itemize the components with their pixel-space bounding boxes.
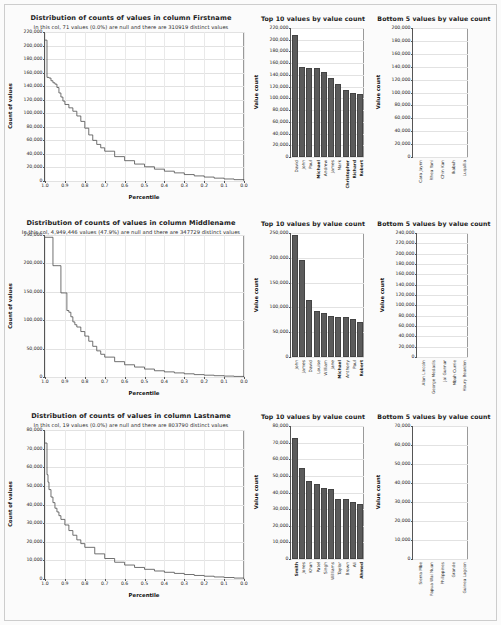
bar	[321, 72, 327, 157]
y-tick-label: 0	[286, 355, 289, 360]
y-tick-label: 60,000	[272, 457, 288, 462]
y-tick-label: 60,000	[398, 324, 414, 329]
y-gridline	[417, 347, 468, 348]
top10-block-lastname: Top 10 values by value count 010,00020,0…	[254, 404, 372, 619]
bar-category-label: Jai Gunnar	[443, 360, 447, 382]
y-tick-mark	[411, 131, 413, 132]
x-tick-label: 0.3	[181, 184, 188, 189]
chart-title: Distribution of counts of values in colu…	[8, 6, 254, 23]
histogram-block-lastname: Distribution of counts of values in colu…	[8, 404, 254, 619]
y-tick-label: 80,000	[398, 313, 414, 318]
y-tick-mark	[411, 464, 413, 465]
y-tick-label: 20,000	[272, 143, 288, 148]
y-gridline	[291, 357, 364, 358]
y-axis-label: Count of values	[7, 469, 13, 539]
plot-axes: 010,00020,00030,00040,00050,00060,00070,…	[290, 426, 364, 560]
y-tick-label: 60,000	[394, 116, 410, 121]
y-tick-label: 200,000	[270, 256, 289, 261]
y-tick-label: 100,000	[270, 96, 289, 101]
bar	[328, 316, 334, 357]
x-tick-label: 0.8	[81, 380, 88, 385]
bar	[292, 35, 298, 157]
y-tick-label: 40,000	[394, 481, 410, 486]
bar-category-label: Jane	[331, 360, 335, 369]
y-tick-label: 140,000	[396, 282, 415, 287]
bar-category-label: Chin Kan	[441, 160, 445, 179]
bar-category-label: Paul	[309, 160, 313, 169]
bar	[321, 313, 327, 357]
y-tick-label: 40,000	[26, 502, 42, 507]
bar	[314, 311, 320, 357]
y-tick-label: 60,000	[26, 465, 42, 470]
y-tick-label: 200,000	[392, 26, 411, 31]
y-tick-label: 20,000	[398, 344, 414, 349]
y-tick-label: 50,000	[26, 346, 42, 351]
bar-category-label: Alan Lincoln	[422, 360, 426, 385]
y-tick-label: 160,000	[24, 70, 43, 75]
y-tick-label: 140,000	[392, 64, 411, 69]
bar-category-label: William	[324, 360, 328, 376]
y-axis-label: Value count	[253, 260, 259, 330]
y-gridline	[417, 305, 468, 306]
bar-category-label: Taylor	[338, 562, 342, 575]
bar	[357, 94, 363, 157]
chart-title: Distribution of counts of values in colu…	[8, 211, 254, 228]
y-tick-label: 200,000	[24, 261, 43, 266]
y-gridline	[413, 426, 468, 427]
bar-category-label: Smith	[295, 562, 299, 576]
y-gridline	[291, 559, 364, 560]
histogram-plot-firstname: 020,00040,00060,00080,000100,000120,0001…	[44, 32, 244, 182]
y-tick-mark	[411, 483, 413, 484]
y-tick-label: 30,000	[272, 507, 288, 512]
y-tick-mark	[289, 559, 291, 560]
y-tick-label: 80,000	[272, 424, 288, 429]
plot-axes: 050,000100,000150,000200,000250,000JohnJ…	[290, 233, 364, 358]
top10-plot-middlename: 050,000100,000150,000200,000250,000JohnJ…	[290, 233, 364, 358]
y-gridline	[413, 483, 468, 484]
x-tick-label: 1.0	[41, 184, 48, 189]
x-tick-label: 0.7	[101, 184, 108, 189]
bar	[343, 499, 349, 559]
bar-category-label: George Medadis	[432, 360, 436, 394]
x-tick-label: 0.1	[220, 184, 227, 189]
bar	[343, 317, 349, 357]
bar-category-label: Robert	[360, 360, 364, 376]
y-tick-mark	[411, 540, 413, 541]
y-tick-mark	[411, 445, 413, 446]
bar	[306, 481, 312, 559]
bar-category-label: Grande	[452, 562, 456, 577]
y-tick-label: 20,000	[394, 142, 410, 147]
y-tick-label: 250,000	[270, 231, 289, 236]
chart-title: Bottom 5 values by value count	[372, 211, 496, 228]
bar	[299, 67, 305, 157]
x-tick-label: 0.2	[201, 184, 208, 189]
y-axis-label: Value count	[379, 260, 385, 330]
x-tick-label: 0.5	[141, 380, 148, 385]
x-tick-label: 0.9	[61, 582, 68, 587]
y-tick-label: 180,000	[24, 57, 43, 62]
x-tick-label: 1.0	[41, 380, 48, 385]
y-tick-label: 0	[408, 557, 411, 562]
report-row-lastname: Distribution of counts of values in colu…	[0, 404, 501, 619]
y-tick-label: 0	[286, 557, 289, 562]
y-axis-label: Value count	[253, 57, 259, 127]
y-gridline	[413, 464, 468, 465]
y-tick-label: 100,000	[24, 318, 43, 323]
y-tick-label: 140,000	[270, 73, 289, 78]
chart-title: Top 10 values by value count	[254, 404, 372, 421]
x-axis-label: Percentile	[44, 390, 244, 396]
y-gridline	[291, 233, 364, 234]
bar	[357, 322, 363, 357]
y-gridline	[413, 118, 468, 119]
top10-block-firstname: Top 10 values by value count 020,00040,0…	[254, 6, 372, 211]
y-tick-mark	[289, 357, 291, 358]
y-tick-mark	[411, 118, 413, 119]
y-gridline	[413, 445, 468, 446]
y-tick-label: 70,000	[394, 424, 410, 429]
y-tick-label: 20,000	[26, 165, 42, 170]
histogram-plot-middlename: 050,000100,000150,000200,000250,0001.00.…	[44, 235, 244, 378]
chart-subtitle: In this col, 71 values (0.0%) are null a…	[8, 23, 254, 31]
y-tick-label: 60,000	[272, 120, 288, 125]
bar	[314, 484, 320, 559]
y-gridline	[413, 502, 468, 503]
